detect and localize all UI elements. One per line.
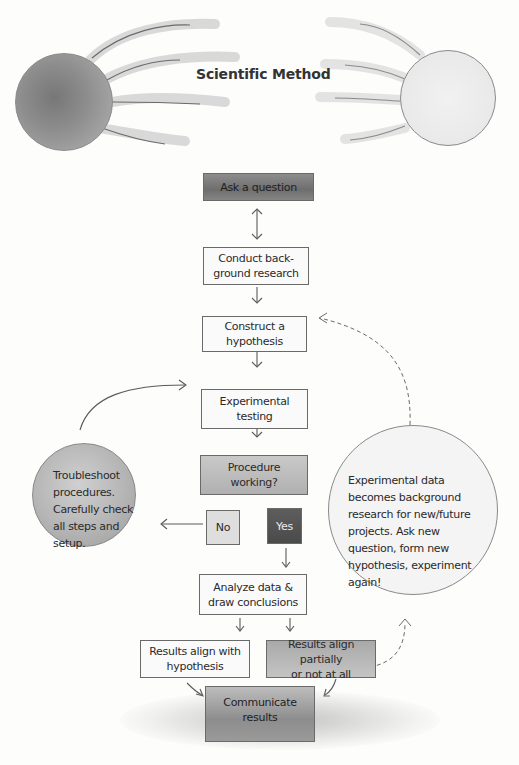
- step-experimental-testing: Experimental testing: [201, 389, 308, 429]
- step-label: Analyze data &: [213, 580, 293, 595]
- result-align-partially: Results align partially or not at all: [266, 640, 376, 678]
- step-communicate-results: Communicate results: [205, 686, 315, 742]
- troubleshoot-text: Troubleshoot procedures. Carefully check…: [53, 467, 143, 552]
- step-label: Conduct back-: [218, 251, 293, 266]
- decision-label: No: [216, 520, 230, 535]
- step-label: Experimental: [220, 394, 290, 409]
- decision-no: No: [206, 510, 240, 545]
- step-label: working?: [230, 475, 277, 490]
- step-background-research: Conduct back- ground research: [203, 247, 309, 285]
- result-align-hypothesis: Results align with hypothesis: [140, 640, 250, 678]
- step-label: or not at all: [291, 667, 351, 682]
- step-label: Procedure: [228, 460, 281, 475]
- step-label: Results align with: [149, 644, 240, 659]
- step-analyze-data: Analyze data & draw conclusions: [199, 574, 307, 615]
- step-label: ground research: [213, 266, 299, 281]
- step-label: draw conclusions: [208, 595, 298, 610]
- feedback-text: Experimental data becomes background res…: [348, 472, 498, 591]
- step-construct-hypothesis: Construct a hypothesis: [202, 316, 307, 352]
- step-ask-question: Ask a question: [203, 173, 314, 201]
- step-label: testing: [236, 409, 272, 424]
- step-label: Construct a: [224, 319, 284, 334]
- step-label: hypothesis: [226, 334, 283, 349]
- left-comet-tails: [90, 24, 235, 141]
- step-label: hypothesis: [167, 659, 224, 674]
- decision-label: Yes: [276, 519, 293, 534]
- step-procedure-working: Procedure working?: [200, 455, 308, 495]
- light-planet-illustration: [400, 50, 496, 146]
- diagram-title: Scientific Method: [196, 66, 331, 82]
- step-label: Ask a question: [220, 180, 297, 195]
- step-label: Communicate results: [206, 695, 314, 725]
- step-label: Results align partially: [267, 637, 375, 667]
- dark-planet-illustration: [15, 53, 113, 151]
- decision-yes: Yes: [267, 508, 302, 544]
